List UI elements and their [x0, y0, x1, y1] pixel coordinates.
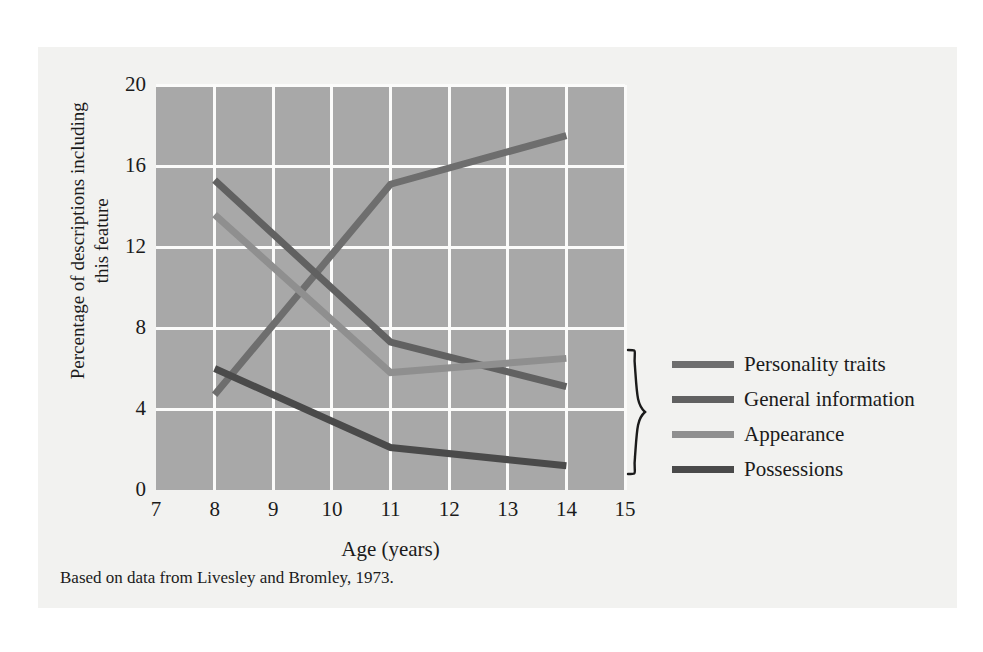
- x-tick-label: 12: [429, 499, 469, 520]
- x-tick-label: 7: [136, 499, 176, 520]
- x-tick-label: 9: [253, 499, 293, 520]
- legend-item: Appearance: [672, 417, 942, 452]
- y-tick-label: 16: [106, 155, 146, 176]
- figure-caption: Based on data from Livesley and Bromley,…: [60, 568, 394, 588]
- legend: Personality traitsGeneral informationApp…: [672, 347, 942, 487]
- legend-label: Appearance: [744, 422, 844, 447]
- legend-item: Personality traits: [672, 347, 942, 382]
- y-axis-ticks: 048121620: [98, 85, 146, 490]
- x-tick-label: 13: [488, 499, 528, 520]
- x-tick-label: 10: [312, 499, 352, 520]
- x-tick-label: 14: [546, 499, 586, 520]
- legend-swatch: [672, 396, 734, 403]
- legend-swatch: [672, 466, 734, 473]
- x-tick-label: 11: [371, 499, 411, 520]
- y-tick-label: 20: [106, 74, 146, 95]
- brace-annotation: [625, 347, 651, 477]
- series-line: [215, 369, 567, 466]
- series-line: [215, 215, 567, 373]
- y-tick-label: 4: [106, 398, 146, 419]
- legend-label: Personality traits: [744, 352, 886, 377]
- y-tick-label: 8: [106, 317, 146, 338]
- legend-item: Possessions: [672, 452, 942, 487]
- plot-area: [156, 85, 625, 490]
- legend-item: General information: [672, 382, 942, 417]
- legend-swatch: [672, 361, 734, 368]
- legend-label: General information: [744, 387, 915, 412]
- series-lines: [156, 85, 625, 490]
- x-tick-label: 8: [195, 499, 235, 520]
- legend-label: Possessions: [744, 457, 843, 482]
- x-tick-label: 15: [605, 499, 645, 520]
- y-tick-label: 0: [106, 479, 146, 500]
- series-line: [215, 180, 567, 387]
- x-axis-ticks: 789101112131415: [156, 499, 625, 527]
- y-tick-label: 12: [106, 236, 146, 257]
- x-axis-title: Age (years): [156, 537, 625, 562]
- figure-panel: Percentage of descriptions including thi…: [38, 47, 957, 608]
- legend-swatch: [672, 431, 734, 438]
